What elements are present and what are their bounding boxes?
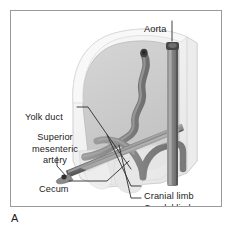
aorta-lumen <box>168 43 176 48</box>
label-cecum: Cecum <box>39 184 69 196</box>
body-wall-right-face <box>187 37 197 173</box>
anatomical-illustration <box>11 11 221 206</box>
label-cranial-limb: Cranial limb <box>144 191 194 203</box>
label-sma-line-1: Superior <box>24 132 86 144</box>
figure-container: Aorta Yolk duct Superior mesenteric arte… <box>0 0 235 232</box>
label-sma-line-3: artery <box>24 155 86 167</box>
aorta-shadow-edge <box>176 47 178 185</box>
panel-letter: A <box>11 212 18 225</box>
figure-border-box: Aorta Yolk duct Superior mesenteric arte… <box>10 10 222 207</box>
aorta-group <box>166 42 179 186</box>
label-aorta: Aorta <box>144 24 166 36</box>
label-superior-mesenteric-artery: Superior mesenteric artery <box>24 132 86 167</box>
yolk-duct-tip-inner <box>142 50 145 54</box>
aorta-highlight <box>169 47 172 185</box>
label-sma-line-2: mesenteric <box>24 144 86 156</box>
label-yolk-duct: Yolk duct <box>25 112 63 124</box>
label-caudal-limb: Caudal limb <box>144 203 194 207</box>
